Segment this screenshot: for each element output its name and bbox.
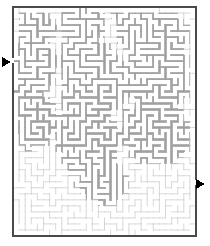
maze-graphic [0,0,210,246]
maze-puzzle-canvas [0,0,210,246]
